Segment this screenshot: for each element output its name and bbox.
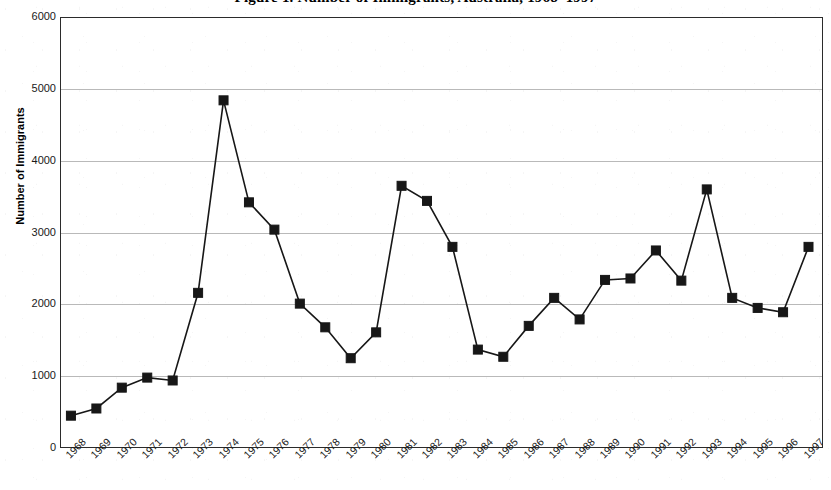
y-tick-label-2000: 2000 [4,298,56,309]
gridline-1000 [61,376,822,377]
y-tick-label-5000: 5000 [4,83,56,94]
gridline-5000 [61,89,822,90]
chart-page: Figure 1. Number of Immigrants, Australi… [0,0,831,490]
y-tick-label-4000: 4000 [4,155,56,166]
y-tick-label-3000: 3000 [4,227,56,238]
y-axis-tick-labels: 0100020003000400050006000 [0,0,56,490]
chart-title: Figure 1. Number of Immigrants, Australi… [0,0,831,6]
gridline-4000 [61,161,822,162]
plot-area [60,17,823,448]
gridline-2000 [61,304,822,305]
gridline-3000 [61,233,822,234]
y-tick-label-1000: 1000 [4,370,56,381]
y-tick-label-0: 0 [4,442,56,453]
y-tick-label-6000: 6000 [4,11,56,22]
